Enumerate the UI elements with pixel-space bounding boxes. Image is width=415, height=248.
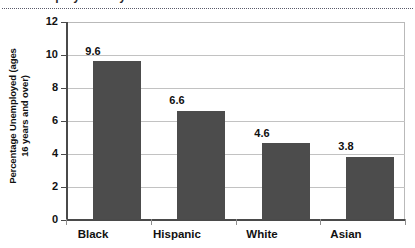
bar-chart: Percentage Unemployed (ages 16 years and… [0, 12, 415, 248]
bar-hispanic[interactable] [177, 111, 225, 219]
x-sep-tick-3 [320, 219, 321, 225]
x-category-label-asian: Asian [322, 228, 370, 240]
bar-white[interactable] [262, 143, 310, 219]
y-tick-label-10: 10 [6, 48, 58, 60]
bar-value-label-asian: 3.8 [322, 140, 370, 152]
y-tick-label-0: 0 [6, 213, 58, 225]
y-tick-label-8: 8 [6, 81, 58, 93]
y-tick-label-6: 6 [6, 114, 58, 126]
x-category-label-hispanic: Hispanic [143, 228, 211, 240]
y-tick-label-2: 2 [6, 180, 58, 192]
clipped-title-strip: Unemployment by Race [0, 0, 415, 6]
x-sep-tick-end [405, 219, 406, 225]
bar-value-label-white: 4.6 [238, 127, 286, 139]
bar-black[interactable] [93, 61, 141, 219]
x-category-label-black: Black [69, 228, 117, 240]
y-tick-label-4: 4 [6, 147, 58, 159]
dotted-divider [2, 8, 413, 9]
y-axis-tick-labels: 0 2 4 6 8 10 12 [0, 22, 58, 220]
x-category-label-white: White [238, 228, 286, 240]
clipped-title-text: Unemployment by Race [22, 0, 158, 3]
bar-value-label-hispanic: 6.6 [153, 94, 201, 106]
x-sep-tick-1 [151, 219, 152, 225]
x-sep-tick-start [66, 219, 67, 225]
x-sep-tick-2 [236, 219, 237, 225]
y-tick-label-12: 12 [6, 15, 58, 27]
bar-asian[interactable] [346, 157, 394, 219]
bar-value-label-black: 9.6 [69, 45, 117, 57]
